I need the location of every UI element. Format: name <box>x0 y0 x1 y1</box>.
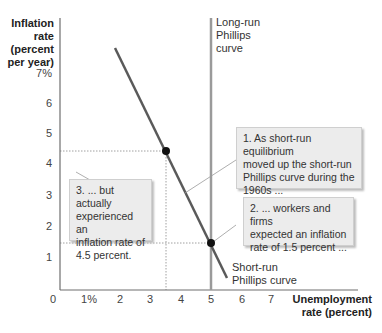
callout-line: 1960s ... <box>243 184 355 197</box>
x-axis-label: Unemployment rate (percent) <box>293 293 372 319</box>
callout-line: 4.5 percent. <box>76 249 145 262</box>
point-actual-equilibrium <box>162 147 170 155</box>
label-line: Phillips curve <box>232 274 297 287</box>
x-tick-5: 5 <box>199 293 223 305</box>
y-axis-label: Inflation rate (percent per year) <box>0 17 54 69</box>
callout-line: moved up the short-run <box>243 158 355 171</box>
y-tick-7: 7% <box>22 67 52 79</box>
label-line: Short-run <box>232 261 297 274</box>
y-axis-label-line: rate <box>0 30 54 43</box>
long-run-curve-label: Long-run Phillips curve <box>216 16 260 55</box>
y-tick-1: 1 <box>22 251 52 263</box>
x-tick-0: 0 <box>41 293 65 305</box>
callout-line: 2. ... workers and firms <box>250 202 347 228</box>
x-axis-label-line: rate (percent) <box>293 306 372 319</box>
x-axis-label-line: Unemployment <box>293 293 372 306</box>
x-tick-1: 1% <box>77 293 101 305</box>
callout-3: 3. ... but actually experienced an infla… <box>69 179 152 241</box>
label-line: curve <box>216 42 260 55</box>
phillips-curve-chart: Inflation rate (percent per year) 7% 6 5… <box>0 0 382 333</box>
callout-line: experienced an <box>76 210 145 236</box>
label-line: Long-run <box>216 16 260 29</box>
y-tick-2: 2 <box>22 220 52 232</box>
y-tick-3: 3 <box>22 189 52 201</box>
x-tick-3: 3 <box>138 293 162 305</box>
callout-line: rate of 1.5 percent ... <box>250 241 347 254</box>
callout-line: inflation rate of <box>76 236 145 249</box>
callout-2-leader <box>213 225 236 242</box>
short-run-curve-label: Short-run Phillips curve <box>232 261 297 287</box>
label-line: Phillips <box>216 29 260 42</box>
callout-line: expected an inflation <box>250 228 347 241</box>
y-tick-6: 6 <box>22 97 52 109</box>
callout-line: Phillips curve during the <box>243 171 355 184</box>
x-tick-2: 2 <box>108 293 132 305</box>
y-tick-4: 4 <box>22 157 52 169</box>
callout-line: 1. As short-run equilibrium <box>243 132 355 158</box>
x-tick-7: 7 <box>259 293 283 305</box>
callout-line: 3. ... but actually <box>76 184 145 210</box>
y-axis-label-line: (percent <box>0 43 54 56</box>
callout-1: 1. As short-run equilibrium moved up the… <box>236 127 362 189</box>
x-tick-4: 4 <box>169 293 193 305</box>
point-expected-equilibrium <box>207 239 215 247</box>
callout-2: 2. ... workers and firms expected an inf… <box>243 197 354 246</box>
y-axis-label-line: Inflation <box>0 17 54 30</box>
y-tick-5: 5 <box>22 127 52 139</box>
x-tick-6: 6 <box>230 293 254 305</box>
